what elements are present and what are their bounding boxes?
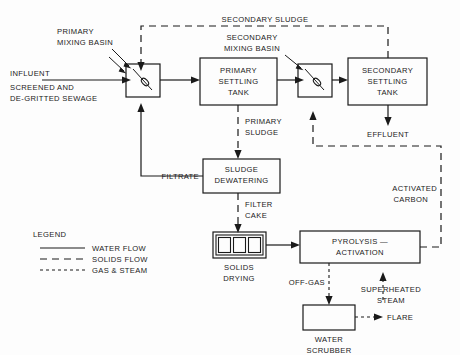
flow-primary-sludge: [234, 105, 241, 159]
primary-settling-tank-line3: TANK: [228, 88, 249, 97]
water-scrubber-line2: SCRUBBER: [307, 346, 352, 355]
sludge-dewatering-line2: DEWATERING: [214, 176, 268, 185]
label-water-scrubber: WATER SCRUBBER: [307, 335, 352, 355]
flow-off-gas: [325, 263, 332, 305]
legend-item-solids-flow: SOLIDS FLOW: [40, 255, 148, 264]
primary-mixing-basin-line2: MIXING BASIN: [57, 38, 113, 47]
node-water-scrubber[interactable]: [303, 305, 355, 330]
flow-effluent: [384, 105, 391, 126]
superheated-steam-label-2: STEAM: [377, 296, 405, 305]
filtrate-label: FILTRATE: [161, 172, 199, 181]
primary-settling-tank-line1: PRIMARY: [220, 66, 257, 75]
influent-sub-label-1: SCREENED AND: [10, 83, 74, 92]
flow-primary-settled-to-secondary-mixing: [277, 76, 304, 83]
label-secondary-mixing-basin: SECONDARY MIXING BASIN: [224, 33, 304, 70]
label-influent: INFLUENT SCREENED AND DE-GRITTED SEWAGE: [10, 69, 98, 103]
legend-item-water-flow: WATER FLOW: [40, 244, 147, 253]
filter-cake-label-1: FILTER: [245, 200, 273, 209]
flow-secondary-mixed-to-secondary-settling: [332, 76, 348, 83]
node-secondary-settling-tank[interactable]: SECONDARY SETTLING TANK: [348, 58, 427, 105]
pyrolysis-activation-line2: ACTIVATION: [336, 248, 384, 257]
label-filter-cake: FILTER CAKE: [245, 200, 273, 220]
label-primary-sludge: PRIMARY SLUDGE: [245, 117, 282, 137]
water-scrubber-line1: WATER: [315, 335, 343, 344]
sludge-dewatering-line1: SLUDGE: [225, 165, 258, 174]
secondary-settling-tank-line3: TANK: [377, 88, 398, 97]
node-solids-drying[interactable]: [213, 232, 266, 258]
primary-settling-tank-line2: SETTLING: [219, 77, 259, 86]
flow-dried-solids-to-pyrolysis: [266, 241, 300, 248]
label-primary-mixing-basin: PRIMARY MIXING BASIN: [57, 27, 132, 74]
pyrolysis-activation-line1: PYROLYSIS —: [332, 237, 388, 246]
legend-title: LEGEND: [33, 230, 66, 239]
influent-sub-label-2: DE-GRITTED SEWAGE: [10, 94, 98, 103]
secondary-mixing-basin-line2: MIXING BASIN: [224, 44, 280, 53]
primary-sludge-label-2: SLUDGE: [245, 128, 278, 137]
process-flow-diagram: PRIMARY SETTLING TANK SECONDARY SETTLING…: [0, 0, 460, 355]
secondary-mixing-basin-line1: SECONDARY: [226, 33, 277, 42]
activated-carbon-label-2: CARBON: [393, 195, 428, 204]
superheated-steam-label-1: SUPERHEATED: [361, 285, 421, 294]
node-pyrolysis-activation[interactable]: PYROLYSIS — ACTIVATION: [300, 231, 420, 263]
flare-label: FLARE: [387, 313, 413, 322]
primary-mixing-basin-line1: PRIMARY: [57, 27, 94, 36]
activated-carbon-label-1: ACTIVATED: [392, 184, 437, 193]
legend-label-water-flow: WATER FLOW: [92, 244, 147, 253]
primary-sludge-label-1: PRIMARY: [245, 117, 282, 126]
off-gas-label: OFF-GAS: [289, 278, 325, 287]
solids-drying-line1: SOLIDS: [224, 263, 254, 272]
flow-flare: [355, 313, 383, 320]
node-sludge-dewatering[interactable]: SLUDGE DEWATERING: [203, 159, 280, 193]
legend-label-solids-flow: SOLIDS FLOW: [92, 255, 148, 264]
label-activated-carbon: ACTIVATED CARBON: [392, 184, 437, 204]
secondary-settling-tank-line2: SETTLING: [368, 77, 408, 86]
legend-item-gas-steam: GAS & STEAM: [40, 266, 147, 275]
flow-filter-cake: [234, 193, 241, 233]
secondary-settling-tank-line1: SECONDARY: [362, 66, 413, 75]
secondary-sludge-label: SECONDARY SLUDGE: [222, 15, 309, 24]
effluent-label: EFFLUENT: [367, 130, 409, 139]
node-primary-mixing-basin[interactable]: [126, 64, 160, 97]
filter-cake-label-2: CAKE: [245, 211, 267, 220]
node-secondary-mixing-basin[interactable]: [298, 64, 332, 97]
legend-label-gas-steam: GAS & STEAM: [92, 266, 147, 275]
influent-label: INFLUENT: [10, 69, 50, 78]
flow-filtrate: [137, 103, 203, 176]
flow-mixed-to-primary-settling: [160, 76, 200, 83]
solids-drying-line2: DRYING: [223, 274, 255, 283]
node-primary-settling-tank[interactable]: PRIMARY SETTLING TANK: [200, 58, 277, 105]
legend: LEGEND WATER FLOW SOLIDS FLOW GAS & STEA…: [33, 230, 148, 275]
label-superheated-steam: SUPERHEATED STEAM: [361, 285, 421, 305]
label-solids-drying: SOLIDS DRYING: [223, 263, 255, 283]
